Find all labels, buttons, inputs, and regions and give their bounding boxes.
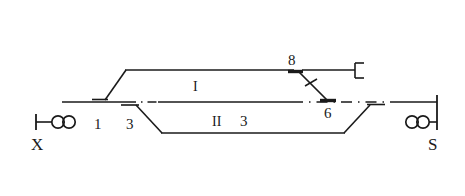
track-layout-figure: 1 3 I II 3 8 6 X S — [0, 0, 465, 196]
right-signal-icon — [406, 95, 437, 130]
track-I-ramp — [105, 70, 126, 100]
left-signal-icon — [36, 114, 75, 130]
track-layout-svg — [0, 0, 465, 196]
buffer-stop-icon — [355, 63, 364, 78]
label-right-signal-S: S — [428, 136, 437, 153]
label-switch-3-left: 3 — [126, 117, 134, 132]
label-switch-3-right: 3 — [240, 114, 248, 129]
label-track-II: II — [212, 115, 221, 129]
track-II-ramp-left — [136, 105, 162, 133]
track-II-ramp-right — [344, 105, 370, 133]
label-left-signal-X: X — [31, 136, 43, 153]
label-track-I: I — [193, 80, 198, 94]
label-switch-8: 8 — [288, 53, 296, 68]
label-switch-6: 6 — [324, 106, 332, 121]
crossover-8-6 — [299, 72, 328, 101]
label-switch-1: 1 — [94, 117, 102, 132]
